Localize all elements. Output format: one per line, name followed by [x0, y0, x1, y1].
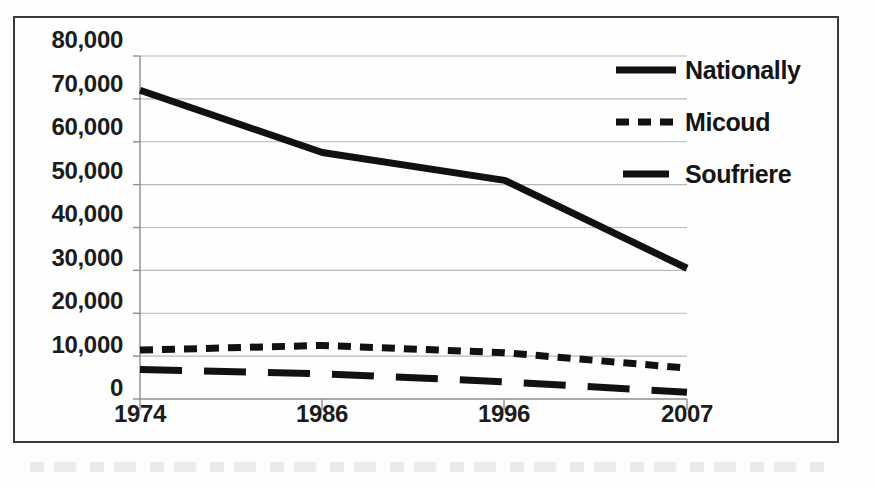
legend-label-soufriere: Soufriere [685, 160, 791, 189]
legend-entry-soufriere: Soufriere [615, 148, 830, 200]
series-line-soufriere [140, 369, 687, 392]
legend-swatch-micoud [615, 112, 677, 132]
legend-entry-micoud: Micoud [615, 96, 830, 148]
legend-swatch-soufriere [615, 164, 677, 184]
caption-smudge [30, 462, 830, 472]
legend-label-micoud: Micoud [685, 108, 770, 137]
x-tick-label: 1996 [478, 400, 530, 428]
gridlines [140, 56, 687, 356]
x-tick-label: 1974 [114, 400, 166, 428]
series-line-nationally [140, 90, 687, 268]
figure-frame: 80,000 70,000 60,000 50,000 40,000 30,00… [13, 16, 839, 443]
y-axis-ticks [133, 56, 140, 399]
legend-label-nationally: Nationally [685, 56, 800, 85]
line-chart: 80,000 70,000 60,000 50,000 40,000 30,00… [15, 18, 837, 441]
chart-legend: Nationally Micoud Soufriere [615, 44, 830, 200]
legend-entry-nationally: Nationally [615, 44, 830, 96]
x-tick-label: 1986 [296, 400, 348, 428]
legend-swatch-nationally [615, 60, 677, 80]
scanned-page: 80,000 70,000 60,000 50,000 40,000 30,00… [0, 0, 876, 488]
x-tick-label: 2007 [661, 400, 713, 428]
x-axis: 1974 1986 1996 2007 [15, 400, 841, 440]
series-line-micoud [140, 345, 687, 368]
